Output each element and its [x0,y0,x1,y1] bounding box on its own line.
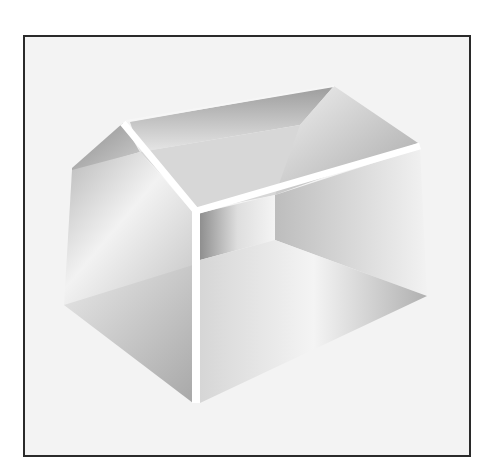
house-box-illustration [0,0,497,475]
